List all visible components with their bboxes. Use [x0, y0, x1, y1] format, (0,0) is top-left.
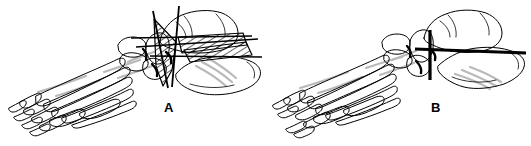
guide-line-horizontal-lower	[150, 56, 262, 57]
figure-container: A B	[0, 0, 531, 146]
figure-background	[0, 0, 531, 146]
panel-label-b: B	[431, 101, 441, 114]
panel-label-a: A	[164, 101, 174, 114]
foot-osteotomy-illustration	[0, 0, 531, 146]
